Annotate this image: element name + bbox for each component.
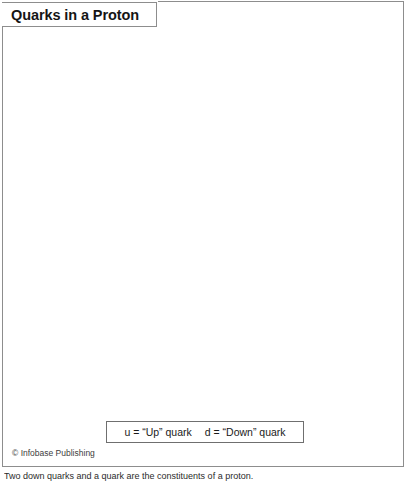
figure-title-box: Quarks in a Proton: [2, 2, 157, 27]
figure-caption-clipped: Two down quarks and a quark are the cons…: [4, 471, 404, 483]
credit-text: Infobase Publishing: [21, 448, 95, 458]
copyright-icon: ©: [12, 448, 18, 458]
legend-box: u = “Up” quark d = “Down” quark: [106, 421, 304, 443]
legend-item-up-quark: u = “Up” quark: [124, 426, 191, 438]
copyright-credit: © Infobase Publishing: [12, 448, 95, 458]
figure-frame: [2, 2, 404, 467]
legend-item-down-quark: d = “Down” quark: [205, 426, 286, 438]
figure-caption-text: Two down quarks and a quark are the cons…: [4, 471, 253, 481]
page-title: Quarks in a Proton: [11, 7, 139, 23]
